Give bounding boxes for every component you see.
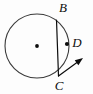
- point-label-d: D: [71, 35, 82, 50]
- geometry-diagram-svg: B D C: [0, 0, 93, 94]
- geometry-figure-canvas: B D C: [0, 0, 93, 94]
- circle-center-dot: [35, 44, 39, 48]
- point-marker-d: [65, 42, 69, 46]
- point-label-c: C: [55, 78, 64, 93]
- point-label-b: B: [59, 0, 67, 15]
